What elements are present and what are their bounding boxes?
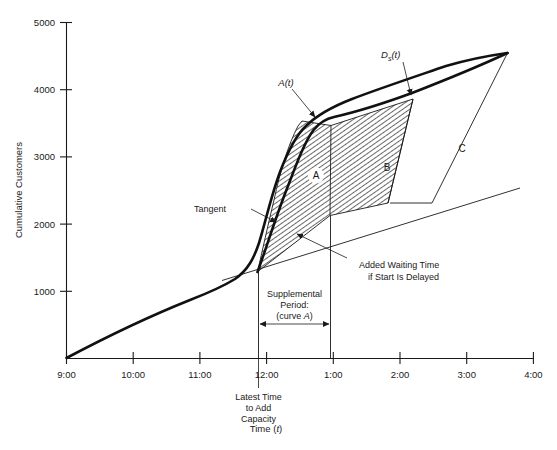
x-tick-label-2-00: 2:00 bbox=[391, 369, 410, 380]
supplemental-line3-open: (curve bbox=[276, 311, 301, 321]
x-axis-title-text: Time ( bbox=[250, 423, 277, 434]
y-tick-label-2000: 2000 bbox=[34, 219, 55, 230]
x-tick-label-4-00: 4:00 bbox=[524, 369, 543, 380]
y-tick-label-3000: 3000 bbox=[34, 151, 55, 162]
x-tick-label-3-00: 3:00 bbox=[457, 369, 476, 380]
region-label-b: B bbox=[384, 162, 391, 173]
supplemental-line2: Period: bbox=[280, 300, 309, 310]
x-axis-title: Time (t) bbox=[250, 423, 282, 434]
y-tick-label-1000: 1000 bbox=[34, 286, 55, 297]
annotation-curve-ds: Ds(t) bbox=[381, 49, 400, 62]
x-tick-label-10-00: 10:00 bbox=[121, 369, 145, 380]
region-label-a: A bbox=[313, 170, 320, 181]
latest-time-line2: to Add bbox=[246, 403, 272, 413]
supplemental-line3-close: ) bbox=[310, 311, 313, 321]
x-tick-label-1-00: 1:00 bbox=[324, 369, 343, 380]
curve-ds-label-tail: (t) bbox=[391, 49, 400, 60]
chart-figure: 5000 4000 3000 2000 1000 9:00 10:00 11:0… bbox=[0, 0, 557, 450]
y-tick-label-4000: 4000 bbox=[34, 84, 55, 95]
annotation-curve-a: A(t) bbox=[277, 77, 293, 88]
svg-text:Ds(t): Ds(t) bbox=[381, 49, 400, 62]
x-tick-label-11-00: 11:00 bbox=[188, 369, 211, 380]
x-tick-label-9-00: 9:00 bbox=[57, 369, 76, 380]
cumulative-customers-chart: 5000 4000 3000 2000 1000 9:00 10:00 11:0… bbox=[0, 0, 557, 450]
latest-time-line1: Latest Time bbox=[235, 392, 282, 402]
added-waiting-line1: Added Waiting Time bbox=[359, 260, 439, 270]
svg-text:(curve A): (curve A) bbox=[276, 311, 313, 321]
region-label-a-group: A bbox=[308, 168, 324, 184]
svg-text:A(t): A(t) bbox=[277, 77, 293, 88]
y-axis-title: Cumulative Customers bbox=[13, 142, 24, 238]
latest-time-line3: Capacity bbox=[241, 414, 277, 424]
added-waiting-line2: if Start Is Delayed bbox=[368, 272, 439, 282]
supplemental-line3-italic: A bbox=[303, 311, 310, 321]
annotation-tangent: Tangent bbox=[194, 204, 227, 214]
curve-a-label: A(t) bbox=[277, 77, 293, 88]
region-label-c: C bbox=[458, 143, 465, 154]
supplemental-line1: Supplemental bbox=[267, 289, 322, 299]
tangent-label: Tangent bbox=[194, 204, 227, 214]
y-tick-label-5000: 5000 bbox=[34, 17, 55, 28]
svg-text:Time (t): Time (t) bbox=[250, 423, 282, 434]
